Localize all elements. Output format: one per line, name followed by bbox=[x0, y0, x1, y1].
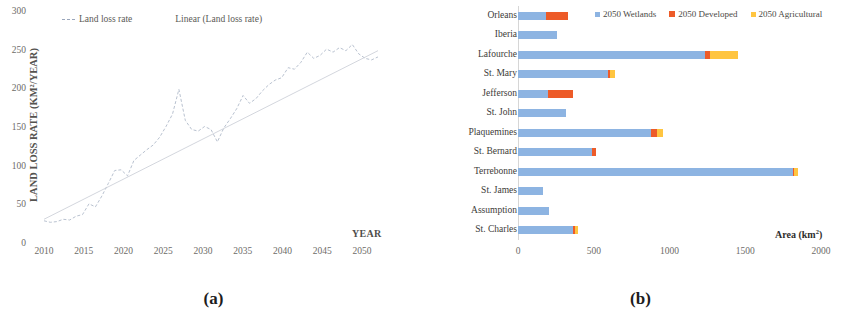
y-tick-label: 50 bbox=[0, 199, 26, 209]
x-tick-label: 2015 bbox=[67, 246, 101, 256]
category-label: Jefferson bbox=[435, 88, 517, 98]
table-row bbox=[518, 207, 549, 215]
y-tick-label: 150 bbox=[0, 122, 26, 132]
bar-segment bbox=[518, 148, 592, 156]
bar-chart-legend: 2050 Wetlands 2050 Developed 2050 Agricu… bbox=[595, 9, 822, 19]
bar-segment bbox=[710, 51, 737, 59]
bar-segment bbox=[794, 168, 799, 176]
x-tick-label: 2045 bbox=[305, 246, 339, 256]
stacked-bar-chart: OrleansIberiaLafourcheSt. MaryJeffersonS… bbox=[427, 0, 854, 272]
x-tick-label: 2020 bbox=[107, 246, 141, 256]
bar-segment bbox=[546, 12, 568, 20]
category-label: Orleans bbox=[435, 10, 517, 20]
legend-item-linear-trend: Linear (Land loss rate) bbox=[158, 14, 262, 24]
table-row bbox=[518, 12, 568, 20]
table-row bbox=[518, 51, 738, 59]
table-row bbox=[518, 148, 596, 156]
legend-label-linear-trend: Linear (Land loss rate) bbox=[175, 14, 262, 24]
x-tick-label: 2035 bbox=[226, 246, 260, 256]
x-tick-label: 2010 bbox=[27, 246, 61, 256]
y-axis-label-container: LAND LOSS RATE (KM²/YEAR) bbox=[26, 30, 40, 220]
bar-segment bbox=[610, 70, 615, 78]
developed-swatch-icon bbox=[669, 11, 675, 17]
bar-segment bbox=[518, 70, 608, 78]
x-axis-tick-labels: 201020152020202520302035204020452050 bbox=[44, 246, 378, 262]
legend-item-land-loss-rate: Land loss rate bbox=[62, 14, 132, 24]
x-axis-label: YEAR bbox=[352, 228, 382, 239]
y-tick-label: 300 bbox=[0, 6, 26, 16]
table-row bbox=[518, 168, 798, 176]
bar-segment bbox=[518, 12, 546, 20]
y-tick-label: 200 bbox=[0, 83, 26, 93]
line-chart-legend: Land loss rate Linear (Land loss rate) bbox=[62, 14, 262, 24]
bar-segment bbox=[548, 90, 572, 98]
table-row bbox=[518, 90, 573, 98]
bar-segment bbox=[592, 148, 596, 156]
bar-segment bbox=[518, 207, 549, 215]
category-label: St. Bernard bbox=[435, 146, 517, 156]
table-row bbox=[518, 129, 663, 137]
table-row bbox=[518, 109, 566, 117]
category-axis-labels: OrleansIberiaLafourcheSt. MaryJeffersonS… bbox=[435, 6, 517, 240]
bar-segment bbox=[575, 226, 578, 234]
bar-segment bbox=[518, 168, 793, 176]
category-label: Terrebonne bbox=[435, 166, 517, 176]
line-chart: LAND LOSS RATE (KM²/YEAR) 05010015020025… bbox=[0, 0, 427, 272]
bar-segment bbox=[518, 226, 573, 234]
bar-segment bbox=[518, 31, 557, 39]
table-row bbox=[518, 70, 615, 78]
bar-x-axis-label-text: Area (km2) bbox=[775, 229, 822, 240]
bar-x-tick-label: 500 bbox=[574, 246, 614, 256]
linear-trend-line bbox=[44, 51, 378, 220]
table-row bbox=[518, 226, 578, 234]
bar-segment bbox=[518, 109, 566, 117]
bar-x-axis-label: Area (km2) bbox=[775, 228, 822, 240]
category-label: Iberia bbox=[435, 29, 517, 39]
category-label: Plaquemines bbox=[435, 127, 517, 137]
category-label: St. Charles bbox=[435, 224, 517, 234]
category-label: St. James bbox=[435, 185, 517, 195]
y-tick-label: 0 bbox=[0, 238, 26, 248]
panel-b-caption: (b) bbox=[427, 289, 854, 309]
y-axis-tick-labels: 050100150200250300 bbox=[0, 0, 26, 245]
bar-x-tick-label: 1500 bbox=[725, 246, 765, 256]
x-tick-label: 2040 bbox=[266, 246, 300, 256]
panel-a-line-chart: LAND LOSS RATE (KM²/YEAR) 05010015020025… bbox=[0, 0, 427, 311]
bar-x-axis-tick-labels: 0500100015002000 bbox=[518, 246, 821, 262]
legend-label-wetlands: 2050 Wetlands bbox=[603, 9, 656, 19]
bar-x-tick-label: 0 bbox=[498, 246, 538, 256]
x-tick-label: 2025 bbox=[146, 246, 180, 256]
legend-label-land-loss-rate: Land loss rate bbox=[79, 14, 132, 24]
value-axis-line bbox=[518, 6, 519, 240]
legend-label-agricultural: 2050 Agricultural bbox=[759, 9, 823, 19]
bar-chart-plot-area bbox=[518, 6, 821, 240]
y-tick-label: 100 bbox=[0, 161, 26, 171]
figure-container: LAND LOSS RATE (KM²/YEAR) 05010015020025… bbox=[0, 0, 854, 311]
panel-b-bar-chart: OrleansIberiaLafourcheSt. MaryJeffersonS… bbox=[427, 0, 854, 311]
bar-x-tick-label: 2000 bbox=[801, 246, 841, 256]
legend-item-agricultural: 2050 Agricultural bbox=[751, 9, 823, 19]
bar-segment bbox=[518, 187, 543, 195]
y-axis-label: LAND LOSS RATE (KM²/YEAR) bbox=[28, 48, 39, 202]
category-label: St. Mary bbox=[435, 68, 517, 78]
legend-label-developed: 2050 Developed bbox=[678, 9, 737, 19]
bar-segment bbox=[657, 129, 663, 137]
dashed-line-swatch-icon bbox=[62, 19, 75, 20]
x-tick-label: 2050 bbox=[345, 246, 379, 256]
legend-item-developed: 2050 Developed bbox=[669, 9, 737, 19]
category-label: Lafourche bbox=[435, 49, 517, 59]
wetlands-swatch-icon bbox=[595, 12, 600, 17]
agricultural-swatch-icon bbox=[751, 12, 756, 17]
table-row bbox=[518, 31, 557, 39]
land-loss-rate-line bbox=[44, 45, 378, 223]
category-label: St. John bbox=[435, 107, 517, 117]
bar-x-tick-label: 1000 bbox=[650, 246, 690, 256]
table-row bbox=[518, 187, 543, 195]
bar-segment bbox=[518, 90, 548, 98]
line-chart-plot-area bbox=[44, 12, 378, 244]
category-label: Assumption bbox=[435, 205, 517, 215]
y-tick-label: 250 bbox=[0, 45, 26, 55]
x-tick-label: 2030 bbox=[186, 246, 220, 256]
line-chart-svg bbox=[44, 12, 378, 244]
legend-item-wetlands: 2050 Wetlands bbox=[595, 9, 656, 19]
